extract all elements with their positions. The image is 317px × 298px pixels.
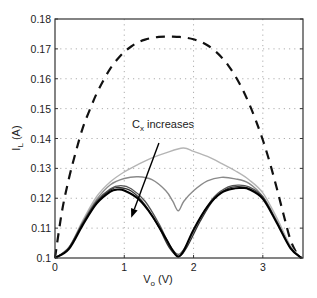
y-tick-label: 0.13 bbox=[31, 162, 52, 174]
y-axis-label: IL (A) bbox=[10, 125, 25, 150]
x-tick-label: 2 bbox=[191, 261, 197, 273]
series-line bbox=[55, 187, 302, 258]
line-chart: 0123 0.10.110.120.130.140.150.160.170.18… bbox=[0, 0, 317, 298]
arrow-head-icon bbox=[131, 208, 138, 218]
y-tick-label: 0.18 bbox=[31, 13, 52, 25]
y-tick-label: 0.11 bbox=[31, 222, 51, 234]
x-tick-label: 3 bbox=[260, 261, 266, 273]
x-axis-label: Vo (V) bbox=[143, 273, 173, 288]
y-tick-label: 0.14 bbox=[31, 133, 52, 145]
y-tick-label: 0.15 bbox=[31, 103, 52, 115]
x-tick-label: 0 bbox=[52, 261, 58, 273]
y-tick-label: 0.17 bbox=[31, 43, 52, 55]
y-tick-label: 0.16 bbox=[31, 73, 52, 85]
cx-increases-annotation: Cx increases bbox=[131, 118, 195, 218]
y-tick-label: 0.12 bbox=[31, 192, 52, 204]
series-line bbox=[55, 177, 302, 258]
data-series bbox=[55, 37, 302, 258]
series-line bbox=[55, 37, 302, 258]
x-tick-label: 1 bbox=[121, 261, 127, 273]
annotation-label: Cx increases bbox=[132, 118, 195, 133]
y-tick-label: 0.1 bbox=[36, 252, 51, 264]
grid-lines bbox=[55, 19, 303, 258]
